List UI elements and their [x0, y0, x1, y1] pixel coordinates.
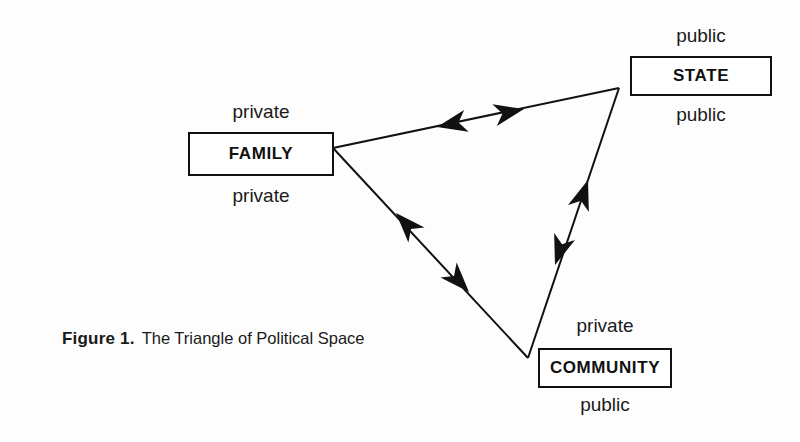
- family-label-below: private: [188, 185, 334, 207]
- triangle-arrowheads: [388, 98, 598, 299]
- node-community-label: COMMUNITY: [550, 358, 660, 378]
- node-community[interactable]: COMMUNITY: [538, 348, 672, 388]
- state-label-below: public: [630, 104, 772, 126]
- arrowhead-toward-family: [435, 110, 469, 138]
- arrowhead-toward-state: [492, 98, 526, 126]
- arrowhead-toward-community-left: [441, 263, 478, 300]
- node-state[interactable]: STATE: [630, 56, 772, 96]
- figure-caption-prefix: Figure 1.: [62, 329, 135, 348]
- community-label-above: private: [538, 315, 672, 337]
- edge-community-family: [333, 148, 528, 358]
- arrowhead-toward-state-right: [568, 176, 598, 211]
- figure-caption: Figure 1.The Triangle of Political Space: [62, 329, 365, 349]
- node-state-label: STATE: [673, 66, 729, 86]
- family-label-above: private: [188, 101, 334, 123]
- edge-family-state: [333, 88, 619, 148]
- state-label-above: public: [630, 25, 772, 47]
- community-label-below: public: [538, 394, 672, 416]
- arrowhead-toward-family-left: [388, 206, 425, 243]
- node-family[interactable]: FAMILY: [188, 132, 334, 176]
- node-family-label: FAMILY: [229, 144, 293, 164]
- figure-political-space: private FAMILY private public STATE publ…: [0, 0, 800, 442]
- figure-caption-text: The Triangle of Political Space: [142, 329, 365, 347]
